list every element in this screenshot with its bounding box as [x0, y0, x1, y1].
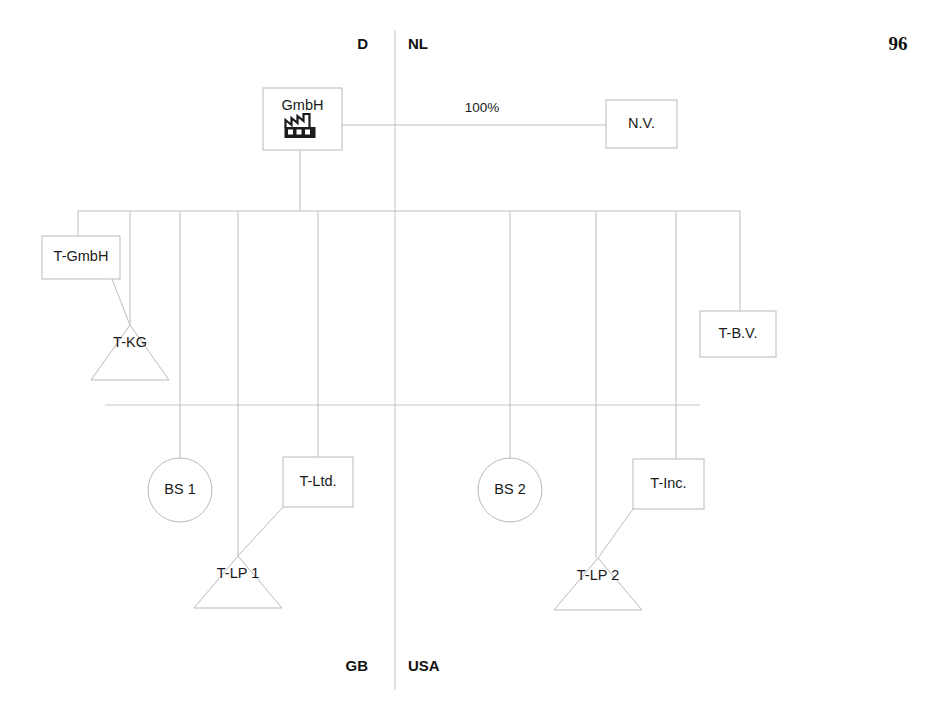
node-t-lp2-label: T-LP 2 — [577, 567, 619, 583]
node-t-kg[interactable]: T-KG — [91, 325, 169, 380]
diagram-canvas: GmbHN.V.T-GmbHT-B.V.T-KGBS 1T-Ltd.BS 2T-… — [0, 0, 945, 709]
node-bs2[interactable]: BS 2 — [478, 458, 542, 522]
node-t-lp1-triangle — [194, 556, 282, 608]
label-d: D — [357, 35, 368, 52]
node-t-inc[interactable]: T-Inc. — [633, 459, 704, 509]
node-t-gmbh-label: T-GmbH — [54, 248, 109, 264]
edge-label-layer: 100% — [465, 100, 500, 115]
node-t-ltd[interactable]: T-Ltd. — [283, 457, 353, 507]
node-gmbh[interactable]: GmbH — [263, 88, 342, 150]
edge-tinc-tlp2 — [598, 509, 633, 558]
label-usa: USA — [408, 657, 440, 674]
node-bs2-label: BS 2 — [494, 481, 525, 497]
node-bs1-label: BS 1 — [164, 481, 195, 497]
node-gmbh-label: GmbH — [282, 97, 324, 113]
node-t-lp1-label: T-LP 1 — [217, 565, 259, 581]
edge-gmbh-nv-label: 100% — [465, 100, 500, 115]
entity-node-layer: GmbHN.V.T-GmbHT-B.V.T-KGBS 1T-Ltd.BS 2T-… — [42, 88, 776, 610]
node-t-gmbh[interactable]: T-GmbH — [42, 236, 120, 279]
edge-tgmbh-tkg — [112, 279, 130, 325]
node-t-bv-label: T-B.V. — [719, 325, 758, 341]
node-t-ltd-label: T-Ltd. — [299, 473, 336, 489]
label-gb: GB — [346, 657, 369, 674]
edge-tltd-tlp1 — [238, 507, 283, 556]
label-nl: NL — [408, 35, 428, 52]
node-nv[interactable]: N.V. — [606, 100, 677, 148]
node-t-kg-label: T-KG — [113, 334, 147, 350]
node-nv-label: N.V. — [628, 115, 655, 131]
country-label-layer: DNLGBUSA — [346, 35, 440, 674]
node-t-lp2[interactable]: T-LP 2 — [554, 558, 642, 610]
group-structure-diagram: GmbHN.V.T-GmbHT-B.V.T-KGBS 1T-Ltd.BS 2T-… — [0, 0, 945, 709]
node-bs1[interactable]: BS 1 — [148, 458, 212, 522]
node-t-inc-label: T-Inc. — [650, 475, 686, 491]
node-t-lp1[interactable]: T-LP 1 — [194, 556, 282, 608]
node-t-lp2-triangle — [554, 558, 642, 610]
node-t-bv[interactable]: T-B.V. — [700, 311, 776, 357]
page-number: 96 — [889, 33, 908, 54]
